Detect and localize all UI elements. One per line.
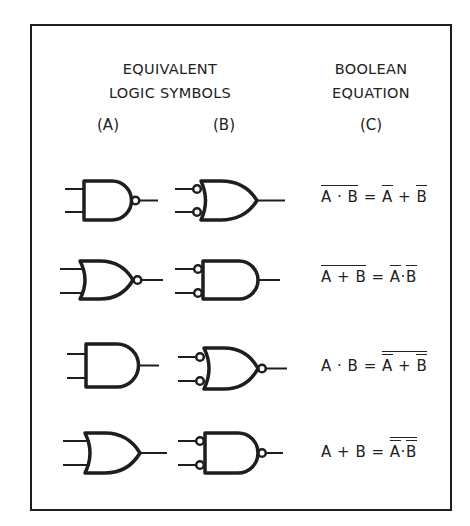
eq1-var-b: B — [348, 188, 359, 206]
eq3-not-a: A — [382, 357, 393, 375]
and-inverted-inputs-gate-icon — [175, 261, 280, 299]
eq4-not-b: B — [406, 443, 417, 461]
eq3-var-a: A — [321, 357, 332, 375]
eq2-not-a: A — [390, 268, 401, 286]
eq4-var-a: A — [321, 443, 332, 461]
eq3-var-b: B — [348, 357, 359, 375]
eq2-equals: = — [371, 268, 384, 286]
eq1-not-a: A — [382, 188, 393, 206]
eq1-op-or: + — [398, 188, 411, 206]
eq3-op-and: · — [337, 357, 342, 375]
eq2-lhs-group: A + B — [321, 268, 366, 286]
eq2-op-or: + — [337, 268, 350, 286]
equation-row-4: A + B = A·B — [321, 443, 417, 461]
equation-row-1: A · B = A + B — [321, 188, 427, 206]
eq1-var-a: A — [321, 188, 332, 206]
equation-row-2: A + B = A·B — [321, 268, 417, 286]
eq2-not-b: B — [406, 268, 417, 286]
eq4-not-a: A — [390, 443, 401, 461]
or-inverted-inputs-gate-icon — [175, 181, 285, 220]
eq3-rhs-group: A + B — [382, 357, 427, 375]
nor-inverted-inputs-gate-icon — [178, 348, 287, 389]
eq1-not-b: B — [416, 188, 427, 206]
eq1-equals: = — [364, 188, 377, 206]
nand-inverted-inputs-gate-icon — [178, 433, 283, 473]
nor-gate-icon — [60, 261, 163, 299]
equation-row-3: A · B = A + B — [321, 357, 427, 375]
eq4-equals: = — [371, 443, 384, 461]
eq4-rhs-group: A·B — [390, 443, 417, 461]
eq2-var-a: A — [321, 268, 332, 286]
eq4-op-or: + — [337, 443, 350, 461]
eq3-not-b: B — [416, 357, 427, 375]
eq1-lhs-group: A · B — [321, 188, 358, 206]
or-gate-icon — [63, 433, 167, 473]
eq3-op-or: + — [398, 357, 411, 375]
eq3-equals: = — [364, 357, 377, 375]
eq4-var-b: B — [355, 443, 366, 461]
nand-gate-icon — [65, 181, 158, 220]
and-gate-icon — [67, 344, 159, 387]
eq2-var-b: B — [355, 268, 366, 286]
eq1-op-and: · — [337, 188, 342, 206]
